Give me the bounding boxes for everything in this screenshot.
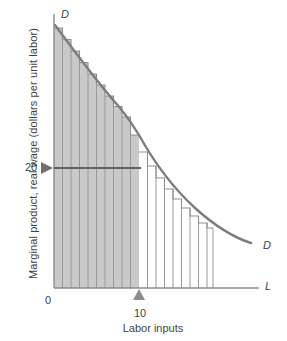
figure-container: Marginal product, real wage (dollars per…: [0, 0, 287, 341]
y-tick-marker-triangle: [41, 162, 53, 174]
x-tick-label-10: 10: [130, 308, 150, 319]
demand-curve-label-right: D: [263, 240, 271, 251]
y-tick-label-20: 20: [25, 162, 37, 173]
x-axis-label: Labor inputs: [93, 323, 213, 334]
x-tick-marker-triangle: [133, 289, 145, 300]
x-tick-label-0: 0: [45, 295, 51, 306]
chart-canvas: [0, 0, 287, 341]
unshaded-bar-lines: [148, 152, 214, 288]
demand-curve-label-top: D: [61, 9, 69, 20]
x-axis-symbol-label: L: [265, 281, 271, 292]
y-axis-label: Marginal product, real wage (dollars per…: [28, 24, 39, 284]
